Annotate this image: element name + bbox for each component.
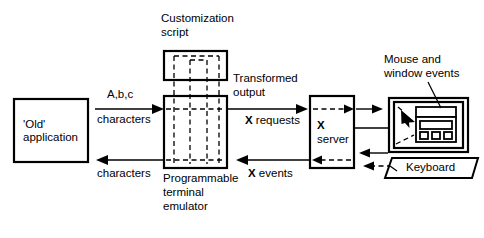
diagram-canvas: 'Old' application Customization script A… <box>0 0 484 238</box>
edge-pte-to-xserver-label-line3: X requests <box>245 114 300 128</box>
window-button-1 <box>420 132 428 139</box>
mouse-window-events-label-line2: window events <box>384 67 459 81</box>
edge-pte-to-app-label: characters <box>97 167 151 181</box>
x-server-label-line1: X <box>317 119 325 133</box>
x-requests-bold-x: X <box>245 114 253 126</box>
edge-display-to-xserver-arrowhead <box>359 149 370 158</box>
edge-xserver-to-pte-label: X events <box>248 167 293 181</box>
edge-app-to-pte-arrowhead <box>152 104 164 114</box>
edge-pte-to-app-arrowhead <box>96 155 108 165</box>
edge-app-to-pte-label-line2: characters <box>97 113 151 127</box>
mouse-window-events-label-line1: Mouse and <box>384 53 441 67</box>
edge-keyboard-to-xserver-arrowhead <box>363 162 374 171</box>
customization-script-label-line2: script <box>161 26 188 40</box>
old-application-label-line2: application <box>23 131 78 145</box>
x-server-label-line2: server <box>317 133 349 147</box>
old-application-label-line1: 'Old' <box>23 118 45 132</box>
edge-xserver-to-pte-arrowhead <box>236 155 248 165</box>
edge-pte-to-xserver-label-line2: output <box>233 86 265 100</box>
edge-xserver-to-display-arrowhead <box>372 105 383 114</box>
window-title-bar <box>416 107 456 117</box>
edge-app-to-pte-label-line1: A,b,c <box>107 88 133 102</box>
terminal-emulator-box <box>164 96 227 168</box>
keyboard-label: Keyboard <box>406 161 455 175</box>
x-events-rest: events <box>256 167 293 179</box>
window-button-3 <box>444 132 452 139</box>
window-button-2 <box>432 132 440 139</box>
window-text-field <box>420 121 452 129</box>
customization-script-label-line1: Customization <box>161 12 234 26</box>
edge-pte-to-xserver-label-line1: Transformed <box>233 72 298 86</box>
diagram-graphics <box>0 0 484 238</box>
terminal-emulator-label-line3: emulator <box>163 200 208 214</box>
edge-pte-to-xserver-arrowhead <box>296 104 308 114</box>
x-events-bold-x: X <box>248 167 256 179</box>
terminal-emulator-label-line2: terminal <box>163 186 204 200</box>
terminal-emulator-label-line1: Programmable <box>163 172 238 186</box>
x-requests-rest: requests <box>253 114 300 126</box>
